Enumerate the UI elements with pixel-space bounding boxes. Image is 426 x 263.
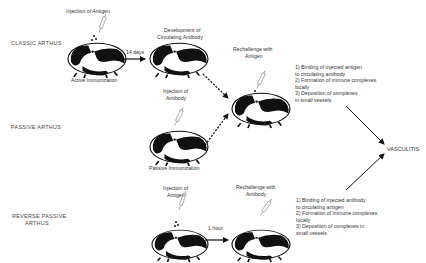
diagram-graphics (0, 0, 426, 263)
arrow-reverse-to-vasculitis (346, 154, 384, 190)
guinea-pig-icon (68, 43, 126, 78)
guinea-pig-icon (152, 230, 208, 262)
dashed-arrow-classic (203, 74, 228, 98)
guinea-pig-icon (232, 230, 290, 262)
guinea-pig-icon (150, 43, 208, 78)
arrow-classic-to-vasculitis (346, 106, 384, 144)
guinea-pig-icon (150, 131, 208, 166)
syringe-icon (173, 107, 184, 126)
syringe-icon (259, 198, 273, 216)
syringe-icon (178, 191, 188, 211)
syringe-icon (255, 70, 266, 89)
syringe-icon (98, 14, 108, 34)
guinea-pig-icon (232, 93, 290, 128)
